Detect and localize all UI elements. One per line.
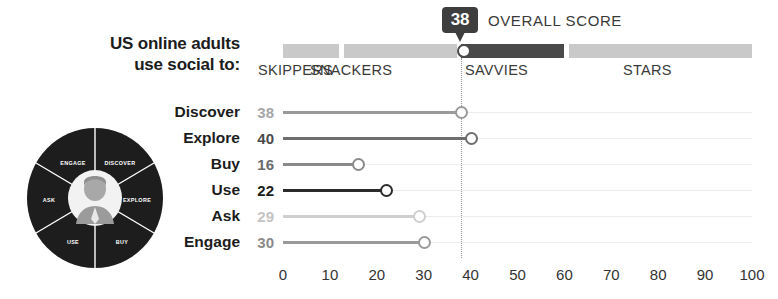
- row-value-buy: 16: [246, 156, 274, 173]
- infographic-root: US online adults use social to: 38 OVERA…: [0, 0, 778, 299]
- page-title-line1: US online adults: [40, 33, 240, 54]
- segment-bar: [283, 44, 752, 58]
- row-value-ask: 29: [246, 208, 274, 225]
- axis-tick-50: 50: [509, 266, 526, 283]
- row-marker-explore: [465, 132, 478, 145]
- axis-tick-30: 30: [415, 266, 432, 283]
- donut-label-buy: BUY: [116, 239, 128, 245]
- row-marker-engage: [418, 236, 431, 249]
- overall-score-label: OVERALL SCORE: [488, 12, 622, 29]
- row-value-discover: 38: [246, 104, 274, 121]
- overall-score-pointer-icon: [455, 32, 465, 42]
- row-bar: [283, 163, 358, 166]
- axis-tick-40: 40: [462, 266, 479, 283]
- row-value-engage: 30: [246, 234, 274, 251]
- segment-labels: SKIPPERSSNACKERSSAVVIESSTARS: [0, 62, 778, 82]
- axis-tick-80: 80: [650, 266, 667, 283]
- engagement-donut-chart: ENGAGE DISCOVER EXPLORE BUY USE ASK: [25, 127, 165, 269]
- axis-tick-70: 70: [603, 266, 620, 283]
- axis-tick-0: 0: [279, 266, 287, 283]
- activity-row: Discover38: [0, 100, 778, 126]
- axis-tick-100: 100: [739, 266, 764, 283]
- row-bar: [283, 137, 471, 140]
- overall-score-badge: 38: [442, 7, 478, 33]
- x-axis: 0102030405060708090100: [0, 266, 778, 288]
- axis-tick-10: 10: [322, 266, 339, 283]
- segment-stars: [569, 44, 752, 58]
- segment-label-savvies: SAVVIES: [465, 62, 528, 78]
- donut-label-ask: ASK: [43, 197, 55, 203]
- donut-svg: ENGAGE DISCOVER EXPLORE BUY USE ASK: [25, 127, 165, 269]
- row-value-use: 22: [246, 182, 274, 199]
- row-marker-use: [380, 184, 393, 197]
- overall-score-value: 38: [451, 10, 469, 30]
- row-marker-discover: [455, 106, 468, 119]
- donut-label-explore: EXPLORE: [123, 197, 151, 203]
- row-bar: [283, 189, 386, 192]
- overall-score-knob-icon: [457, 44, 471, 58]
- axis-tick-60: 60: [556, 266, 573, 283]
- row-bar: [283, 111, 461, 114]
- row-marker-buy: [352, 158, 365, 171]
- row-bar: [283, 241, 424, 244]
- axis-tick-90: 90: [697, 266, 714, 283]
- row-value-explore: 40: [246, 130, 274, 147]
- segment-label-stars: STARS: [623, 62, 672, 78]
- donut-label-use: USE: [67, 239, 79, 245]
- row-bar: [283, 215, 419, 218]
- donut-label-discover: DISCOVER: [105, 160, 136, 166]
- segment-label-snackers: SNACKERS: [310, 62, 392, 78]
- segment-snackers: [344, 44, 457, 58]
- row-marker-ask: [413, 210, 426, 223]
- donut-label-engage: ENGAGE: [60, 160, 86, 166]
- segment-savvies: [461, 44, 564, 58]
- row-label-discover: Discover: [60, 103, 240, 121]
- segment-skippers: [283, 44, 339, 58]
- axis-tick-20: 20: [368, 266, 385, 283]
